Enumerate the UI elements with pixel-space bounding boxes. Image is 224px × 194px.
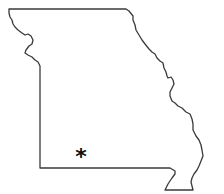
missouri-outline	[9, 9, 203, 190]
asterisk-icon: *	[72, 146, 90, 168]
state-outline-map	[0, 0, 224, 194]
map: *	[0, 0, 224, 194]
